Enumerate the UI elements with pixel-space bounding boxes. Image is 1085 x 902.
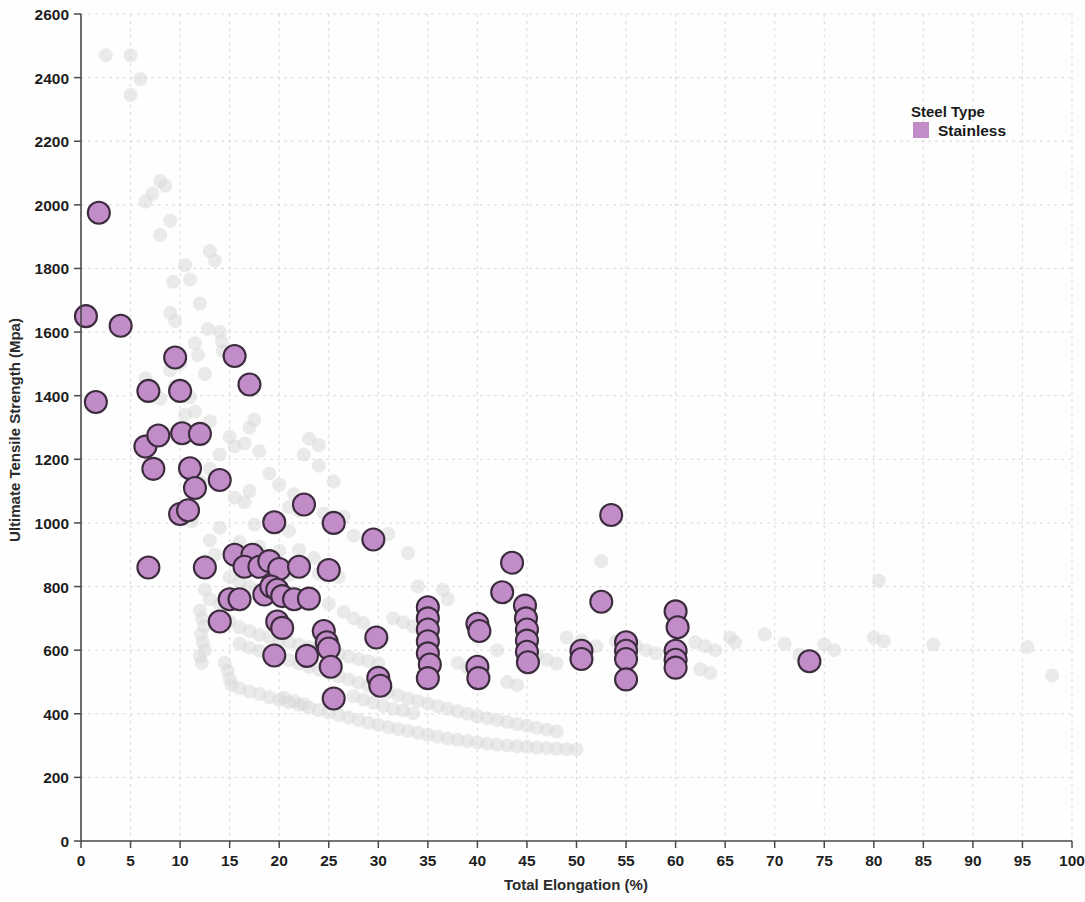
y-tick-label: 1800 bbox=[35, 260, 69, 277]
background-point bbox=[401, 546, 415, 560]
data-point-stainless bbox=[189, 423, 211, 445]
data-point-stainless bbox=[110, 315, 132, 337]
data-point-stainless bbox=[318, 559, 340, 581]
chart-figure: 0510152025303540455055606570758085909510… bbox=[0, 0, 1085, 902]
background-point bbox=[877, 634, 891, 648]
y-axis-ticks: 0200400600800100012001400160018002000220… bbox=[35, 6, 81, 850]
background-point bbox=[193, 296, 207, 310]
y-tick-label: 1600 bbox=[35, 324, 69, 341]
y-tick-label: 200 bbox=[43, 769, 69, 786]
background-point bbox=[322, 597, 336, 611]
data-point-stainless bbox=[369, 675, 391, 697]
background-point bbox=[213, 521, 227, 535]
data-point-stainless bbox=[238, 374, 260, 396]
background-point bbox=[188, 336, 202, 350]
background-point bbox=[138, 195, 152, 209]
x-tick-label: 100 bbox=[1059, 852, 1085, 869]
background-point bbox=[272, 478, 286, 492]
background-point bbox=[191, 348, 205, 362]
background-point bbox=[550, 657, 564, 671]
y-axis-title: Ultimate Tensile Strength (Mpa) bbox=[6, 318, 23, 542]
background-point bbox=[728, 635, 742, 649]
background-point bbox=[297, 448, 311, 462]
grid-lines bbox=[81, 14, 1072, 841]
x-tick-label: 10 bbox=[171, 852, 188, 869]
background-point bbox=[490, 643, 504, 657]
y-tick-label: 0 bbox=[60, 833, 69, 850]
data-point-stainless bbox=[570, 648, 592, 670]
data-point-stainless bbox=[491, 581, 513, 603]
background-point bbox=[758, 627, 772, 641]
background-point bbox=[703, 666, 717, 680]
data-point-stainless bbox=[365, 626, 387, 648]
x-tick-label: 70 bbox=[766, 852, 783, 869]
x-axis-ticks: 0510152025303540455055606570758085909510… bbox=[77, 841, 1085, 869]
data-point-stainless bbox=[263, 511, 285, 533]
data-point-stainless bbox=[288, 556, 310, 578]
data-point-stainless bbox=[296, 645, 318, 667]
y-tick-label: 1200 bbox=[35, 451, 69, 468]
background-point bbox=[312, 438, 326, 452]
background-point bbox=[441, 592, 455, 606]
background-point bbox=[158, 179, 172, 193]
legend: Steel Type Stainless bbox=[911, 103, 1006, 139]
data-point-stainless bbox=[323, 512, 345, 534]
data-point-stainless bbox=[164, 347, 186, 369]
background-point bbox=[550, 725, 564, 739]
legend-title: Steel Type bbox=[911, 103, 985, 120]
x-tick-label: 15 bbox=[221, 852, 239, 869]
background-point bbox=[208, 254, 222, 268]
data-point-stainless bbox=[169, 380, 191, 402]
data-point-stainless bbox=[209, 611, 231, 633]
data-point-stainless bbox=[209, 469, 231, 491]
data-point-stainless bbox=[177, 499, 199, 521]
background-point bbox=[406, 706, 420, 720]
data-point-stainless bbox=[615, 648, 637, 670]
background-point bbox=[198, 367, 212, 381]
x-tick-label: 5 bbox=[126, 852, 135, 869]
y-tick-label: 2400 bbox=[35, 70, 69, 87]
data-point-stainless bbox=[590, 591, 612, 613]
x-tick-label: 30 bbox=[370, 852, 387, 869]
data-point-stainless bbox=[468, 620, 490, 642]
data-point-stainless bbox=[600, 504, 622, 526]
data-point-stainless bbox=[229, 588, 251, 610]
data-point-stainless bbox=[179, 457, 201, 479]
background-point bbox=[570, 742, 584, 756]
y-tick-label: 600 bbox=[43, 642, 69, 659]
background-point bbox=[124, 48, 138, 62]
background-point bbox=[168, 314, 182, 328]
background-point bbox=[708, 643, 722, 657]
data-point-stainless bbox=[615, 668, 637, 690]
data-point-stainless bbox=[263, 645, 285, 667]
background-point bbox=[510, 678, 524, 692]
background-point bbox=[213, 448, 227, 462]
legend-label-stainless: Stainless bbox=[938, 122, 1006, 139]
data-point-stainless bbox=[137, 380, 159, 402]
data-point-stainless bbox=[298, 588, 320, 610]
x-tick-label: 0 bbox=[77, 852, 86, 869]
scatter-plot-canvas: 0510152025303540455055606570758085909510… bbox=[0, 0, 1085, 902]
background-point bbox=[183, 273, 197, 287]
legend-swatch-stainless bbox=[913, 122, 929, 138]
data-point-stainless bbox=[667, 616, 689, 638]
background-point bbox=[195, 656, 209, 670]
background-point bbox=[411, 580, 425, 594]
data-point-stainless bbox=[137, 556, 159, 578]
x-tick-label: 25 bbox=[320, 852, 338, 869]
data-point-stainless bbox=[501, 552, 523, 574]
background-point bbox=[347, 529, 361, 543]
x-tick-label: 50 bbox=[568, 852, 585, 869]
background-point bbox=[252, 444, 266, 458]
data-point-stainless bbox=[417, 667, 439, 689]
y-tick-label: 1000 bbox=[35, 515, 69, 532]
background-point bbox=[133, 72, 147, 86]
x-tick-label: 20 bbox=[271, 852, 288, 869]
data-point-stainless bbox=[323, 688, 345, 710]
x-tick-label: 60 bbox=[667, 852, 684, 869]
background-point bbox=[297, 697, 311, 711]
background-point bbox=[649, 646, 663, 660]
background-point bbox=[1045, 669, 1059, 683]
x-tick-label: 35 bbox=[419, 852, 437, 869]
x-tick-label: 65 bbox=[717, 852, 735, 869]
